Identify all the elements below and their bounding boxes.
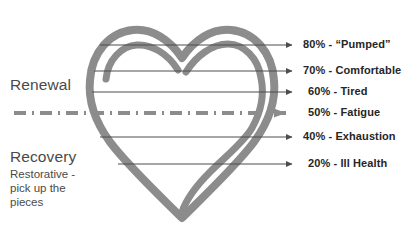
- stage-label-70: 70% - Comfortable: [303, 64, 401, 76]
- renewal-zone-label: Renewal: [10, 76, 71, 94]
- heart-inner-outline: [106, 44, 262, 212]
- stage-label-80: 80% - “Pumped”: [303, 38, 391, 50]
- heart-stage-diagram: Renewal Recovery Restorative - pick up t…: [0, 0, 420, 236]
- stage-label-50: 50% - Fatigue: [308, 106, 380, 118]
- recovery-zone-subtitle: Restorative - pick up the pieces: [10, 167, 96, 210]
- recovery-zone-label: Recovery: [10, 148, 76, 166]
- stage-label-20: 20% - Ill Health: [308, 157, 387, 169]
- stage-label-40: 40% - Exhaustion: [303, 130, 396, 142]
- stage-label-60: 60% - Tired: [308, 85, 368, 97]
